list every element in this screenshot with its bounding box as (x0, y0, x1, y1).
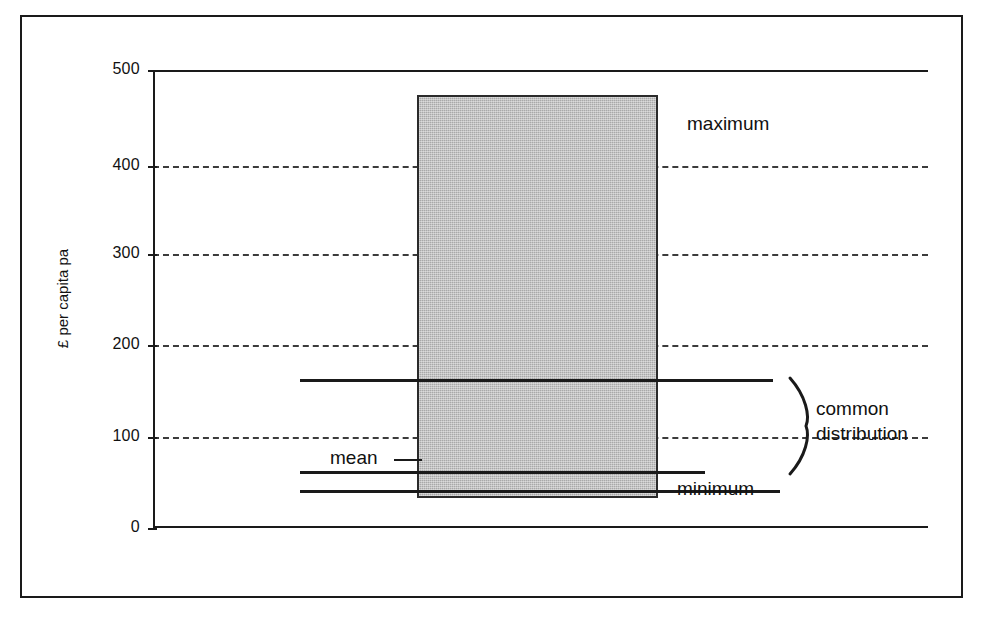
ytick-label-400-wrap: 400 (88, 156, 140, 176)
ytick-label-100: 100 (92, 427, 140, 445)
ytick-mark-500 (148, 70, 157, 72)
common-distribution-line2: distribution (816, 421, 908, 446)
ytick-mark-200 (148, 345, 157, 347)
ytick-label-300: 300 (92, 244, 140, 262)
ytick-label-500-wrap: 500 (88, 60, 140, 80)
upper-common-distribution-line (300, 379, 773, 382)
ytick-label-200: 200 (92, 335, 140, 353)
ytick-label-100-wrap: 100 (88, 427, 140, 447)
common-distribution-label: common distribution (816, 396, 908, 446)
ytick-mark-0 (148, 528, 157, 530)
ytick-mark-400 (148, 166, 157, 168)
ytick-label-300-wrap: 300 (88, 244, 140, 264)
chart-figure: 500 400 300 200 100 0 £ per capita pa ma… (0, 0, 987, 618)
ytick-mark-300 (148, 254, 157, 256)
maximum-label: maximum (687, 113, 769, 135)
mean-leader-line (394, 459, 422, 461)
ytick-mark-100 (148, 437, 157, 439)
ytick-label-200-wrap: 200 (88, 335, 140, 355)
ytick-label-400: 400 (92, 156, 140, 174)
minimum-label: minimum (677, 478, 754, 500)
mean-line (300, 471, 705, 474)
range-bar (417, 95, 658, 498)
ytick-label-500: 500 (92, 60, 140, 78)
common-distribution-brace (786, 374, 816, 478)
ytick-label-0: 0 (92, 518, 140, 536)
y-axis-title: £ per capita pa (54, 219, 71, 379)
ytick-label-0-wrap: 0 (88, 518, 140, 538)
common-distribution-line1: common (816, 396, 908, 421)
mean-label: mean (330, 447, 378, 469)
